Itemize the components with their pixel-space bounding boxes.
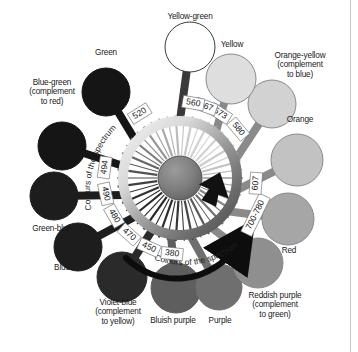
colour-label-orange-yellow: Orange-yellow (complement to blue) bbox=[245, 51, 355, 79]
colour-label-yellow-green: Yellow-green bbox=[135, 12, 245, 21]
colour-label-green: Green bbox=[51, 48, 161, 57]
wavelength-label: 380 bbox=[164, 247, 180, 258]
colour-node-green-blue bbox=[30, 172, 78, 220]
wavelength-label: 494 bbox=[98, 159, 110, 175]
wavelength-label: 607 bbox=[250, 176, 261, 191]
colour-label-green-blue: Green-blue bbox=[0, 224, 107, 233]
colour-node-orange bbox=[271, 134, 323, 186]
colour-node-red bbox=[262, 193, 314, 245]
wheel-hub bbox=[158, 156, 202, 200]
colour-label-orange: Orange bbox=[245, 115, 355, 124]
colour-label-blue: Blue bbox=[7, 263, 117, 272]
colour-node-violet-blue bbox=[97, 252, 147, 302]
figure-canvas: Colours of the spectrum Colours of the s… bbox=[0, 0, 358, 352]
colour-node-blue-green bbox=[38, 122, 86, 170]
colour-label-yellow: Yellow bbox=[177, 40, 287, 49]
colour-label-reddish-purple: Reddish purple (complement to green) bbox=[220, 291, 330, 319]
colour-label-blue-green: Blue-green (complement to red) bbox=[0, 78, 107, 106]
colour-label-red: Red bbox=[234, 246, 344, 255]
